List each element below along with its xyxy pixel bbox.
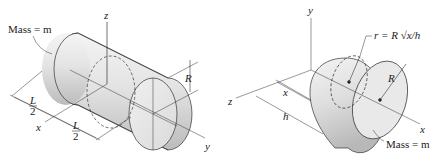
paraboloid-axis-z-label: z — [227, 95, 233, 107]
half-length-label-1: L 2 — [29, 94, 37, 117]
paraboloid-mass-label: Mass = m — [386, 138, 430, 150]
paraboloid-dim-h-label: h — [283, 110, 289, 122]
cylinder-radius-label: R — [184, 72, 192, 84]
paraboloid-profile-equation: r = R √x/h — [374, 29, 421, 41]
paraboloid-radius-label: R — [387, 72, 395, 84]
paraboloid-axis-y-label: y — [307, 4, 313, 16]
cylinder-axis-y-label: y — [204, 140, 210, 152]
cylinder-axis-z-label: z — [103, 9, 109, 21]
half-length-label-2: L 2 — [72, 119, 80, 142]
svg-text:2: 2 — [30, 105, 36, 117]
svg-text:2: 2 — [73, 130, 79, 142]
cylinder-axis-x-label: x — [35, 121, 41, 133]
paraboloid-axis-x-label: x — [419, 123, 425, 135]
paraboloid-dim-x-label: x — [282, 86, 288, 98]
cylinder-mass-label: Mass = m — [8, 23, 52, 35]
diagram-canvas: Mass = m z y x R L 2 L 2 — [0, 0, 440, 164]
